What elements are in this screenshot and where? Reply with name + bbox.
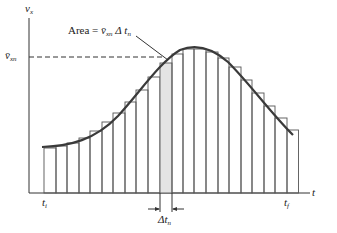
- rectangle-bar: [194, 49, 206, 193]
- rectangle-bar: [183, 49, 194, 193]
- delta-t-main: Δt: [158, 213, 168, 225]
- rectangle-bar: [125, 102, 136, 193]
- t-initial-label: ti: [42, 196, 47, 208]
- rectangle-bar: [67, 143, 79, 193]
- area-leader-line: [136, 36, 168, 60]
- velocity-time-diagram: vx v̄xn Area = v̄xn Δ tn t ti tf Δtn: [0, 0, 337, 233]
- x-axis-label: t: [312, 186, 315, 198]
- avg-velocity-label: v̄xn: [5, 49, 17, 61]
- rectangle-bar: [275, 118, 287, 193]
- t-initial-sub: i: [45, 202, 47, 210]
- rectangle-bar: [206, 52, 218, 193]
- delta-t-sub: n: [168, 219, 172, 227]
- delta-t-label: Δtn: [158, 213, 171, 225]
- rectangle-bar: [102, 122, 113, 193]
- t-final-label: tf: [284, 196, 289, 208]
- rectangle-bar: [113, 113, 125, 193]
- y-axis-label: vx: [25, 2, 33, 14]
- area-label: Area = v̄xn Δ tn: [68, 24, 131, 36]
- x-axis-label-main: t: [312, 186, 315, 198]
- rectangle-bar: [148, 77, 160, 193]
- delta-t-left-arrowhead-icon: [155, 207, 160, 211]
- rectangle-bar: [218, 58, 229, 193]
- rectangle-bar: [229, 67, 241, 193]
- area-label-dt: Δ t: [113, 24, 128, 36]
- delta-t-right-arrowhead-icon: [172, 207, 177, 211]
- area-label-v-sub: xn: [106, 30, 113, 38]
- rectangle-bar: [79, 138, 90, 193]
- rectangle-bars: [44, 49, 299, 193]
- shaded-rectangle: [160, 63, 172, 193]
- y-axis-label-sub: x: [30, 8, 33, 16]
- rectangle-bar: [90, 131, 102, 193]
- area-label-prefix: Area =: [68, 24, 101, 36]
- rectangle-bar: [264, 106, 275, 193]
- rectangle-bar: [252, 93, 264, 193]
- rectangle-bar: [56, 146, 67, 193]
- rectangle-bar: [172, 54, 183, 193]
- rectangle-bar: [44, 148, 56, 193]
- area-label-dt-sub: n: [127, 30, 131, 38]
- t-final-sub: f: [287, 202, 289, 210]
- avg-velocity-label-sub: xn: [10, 55, 17, 63]
- rectangle-bar: [136, 90, 148, 193]
- rectangle-bar: [241, 80, 252, 193]
- rectangle-bar: [287, 130, 299, 193]
